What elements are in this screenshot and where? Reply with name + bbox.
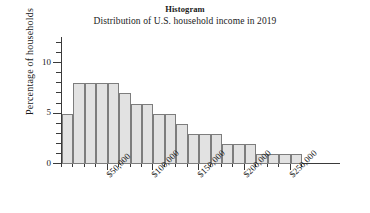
x-axis-minor-tick: [72, 164, 73, 167]
x-axis-minor-tick: [61, 164, 62, 167]
x-axis-minor-tick: [141, 164, 142, 167]
x-axis-minor-tick: [232, 164, 233, 167]
histogram-bar: [131, 104, 142, 164]
histogram-bar: [108, 83, 119, 164]
histogram-bar: [85, 83, 96, 164]
x-axis-minor-tick: [187, 164, 188, 167]
histogram-figure: Histogram Distribution of U.S. household…: [0, 0, 370, 213]
x-axis-minor-tick: [221, 164, 222, 167]
histogram-bar: [73, 83, 84, 164]
x-axis-minor-tick: [95, 164, 96, 167]
histogram-bar: [62, 114, 73, 164]
histogram-bar: [153, 114, 164, 164]
y-axis-major-tick: [53, 113, 61, 114]
y-axis-major-tick: [53, 62, 61, 63]
y-axis-tick-label: 10: [42, 58, 51, 67]
x-axis-minor-tick: [267, 164, 268, 167]
x-axis-minor-tick: [130, 164, 131, 167]
histogram-bar: [142, 104, 153, 164]
histogram-bar: [96, 83, 107, 164]
x-axis-minor-tick: [175, 164, 176, 167]
histogram-bar: [188, 134, 199, 164]
histogram-bar: [279, 154, 290, 164]
x-axis-minor-tick: [278, 164, 279, 167]
y-axis-ticks: 0510: [0, 0, 61, 213]
y-axis-major-tick: [53, 163, 61, 164]
histogram-bar: [176, 124, 187, 164]
y-axis-tick-label: 0: [47, 159, 52, 168]
x-axis-minor-tick: [84, 164, 85, 167]
plot-area: [62, 37, 318, 164]
y-axis-tick-label: 5: [47, 108, 52, 117]
histogram-bar: [233, 144, 244, 164]
